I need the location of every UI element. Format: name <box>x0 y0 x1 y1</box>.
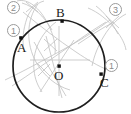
point-label-c: C <box>100 76 109 89</box>
construction-canvas <box>0 0 131 114</box>
construction-arc-r-1 <box>88 8 126 50</box>
geometry-figure: A B C O 1 2 3 1 <box>0 0 131 114</box>
step-marker-one-right: 1 <box>105 59 118 72</box>
step-marker-three: 3 <box>109 3 122 16</box>
step-marker-one-left: 1 <box>7 24 20 37</box>
step-marker-two: 2 <box>7 1 20 14</box>
point-label-a: A <box>17 41 26 54</box>
point-label-o: O <box>54 69 63 82</box>
point-label-b: B <box>56 6 65 19</box>
